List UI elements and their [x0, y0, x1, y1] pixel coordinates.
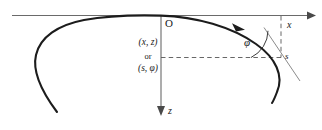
- z-axis-arrowhead: [157, 106, 165, 116]
- intrinsic-coordinate-label: (s, φ): [122, 62, 174, 76]
- coordinate-notation-block: (x, z) or (s, φ): [122, 36, 174, 76]
- phi-angle-label: φ: [244, 37, 250, 48]
- phi-angle-arc: [251, 31, 268, 58]
- x-axis-label: x: [287, 20, 291, 30]
- x-axis-arrowhead: [307, 12, 316, 20]
- coordinate-connector-label: or: [122, 50, 174, 62]
- origin-label: O: [165, 18, 173, 29]
- cartesian-coordinate-label: (x, z): [122, 36, 174, 50]
- point-s-label: s: [285, 52, 289, 61]
- z-axis-label: z: [168, 106, 172, 116]
- figure-container: O x z s φ (x, z) or (s, φ): [0, 0, 322, 130]
- tangent-line: [264, 28, 300, 82]
- curve-direction-arrowhead: [232, 23, 245, 31]
